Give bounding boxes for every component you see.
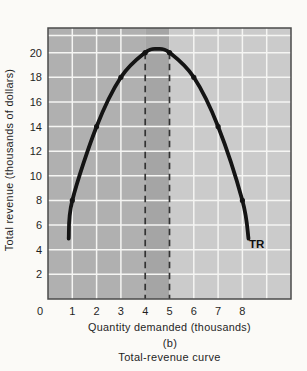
panel-label: (b) bbox=[163, 337, 177, 349]
tr-curve-label: TR bbox=[249, 238, 265, 250]
y-tick-label: 14 bbox=[30, 121, 42, 133]
x-tick-label: 3 bbox=[118, 305, 124, 317]
y-tick-label: 8 bbox=[36, 194, 42, 206]
x-tick-label: 4 bbox=[142, 305, 148, 317]
y-tick-label: 18 bbox=[30, 71, 42, 83]
y-tick-label: 20 bbox=[30, 47, 42, 59]
chart-title: Total-revenue curve bbox=[118, 351, 220, 363]
x-tick-label: 0 bbox=[37, 305, 43, 317]
y-tick-label: 10 bbox=[30, 170, 42, 182]
x-tick-label: 7 bbox=[215, 305, 221, 317]
x-tick-label: 5 bbox=[166, 305, 172, 317]
data-point bbox=[118, 75, 123, 80]
x-tick-label: 1 bbox=[69, 305, 75, 317]
total-revenue-chart: 0123456782468101214161820 Total revenue … bbox=[0, 0, 307, 371]
data-point bbox=[70, 198, 75, 203]
data-point bbox=[240, 198, 245, 203]
y-tick-label: 4 bbox=[36, 244, 42, 256]
data-point bbox=[216, 124, 221, 129]
y-tick-label: 2 bbox=[36, 268, 42, 280]
total-revenue-figure: 0123456782468101214161820 Total revenue … bbox=[0, 0, 307, 371]
y-tick-label: 16 bbox=[30, 96, 42, 108]
y-axis-label: Total revenue (thousands of dollars) bbox=[3, 69, 15, 251]
x-tick-label: 2 bbox=[94, 305, 100, 317]
data-point bbox=[143, 50, 148, 55]
data-point bbox=[94, 124, 99, 129]
data-point bbox=[167, 50, 172, 55]
data-point bbox=[191, 75, 196, 80]
plot-area: 0123456782468101214161820 bbox=[30, 28, 291, 317]
shaded-region bbox=[145, 28, 169, 299]
x-axis-label: Quantity demanded (thousands) bbox=[88, 321, 251, 333]
x-tick-label: 6 bbox=[191, 305, 197, 317]
y-tick-label: 12 bbox=[30, 145, 42, 157]
y-tick-label: 6 bbox=[36, 219, 42, 231]
x-tick-label: 8 bbox=[239, 305, 245, 317]
